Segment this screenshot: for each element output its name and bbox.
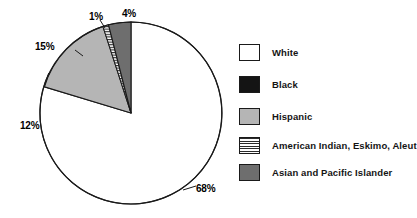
legend-item-asian-pacific-islander: Asian and Pacific Islander (239, 162, 392, 182)
legend-swatch-white-icon (239, 44, 260, 61)
legend-item-hispanic: Hispanic (239, 106, 312, 126)
pie-plot-area: 68% 12% 15% 1% 4% (0, 0, 240, 218)
legend-swatch-american-indian-icon (239, 137, 260, 154)
slice-label-white: 68% (196, 183, 215, 194)
slice-label-asian-pacific-islander: 4% (122, 8, 136, 19)
legend-item-black: Black (239, 74, 298, 94)
legend-swatch-hispanic-icon (239, 108, 260, 125)
legend-swatch-asian-pacific-islander-icon (239, 164, 260, 181)
slice-label-american-indian: 1% (89, 11, 103, 22)
legend-label-asian-pacific-islander: Asian and Pacific Islander (272, 167, 392, 178)
legend-label-black: Black (272, 79, 298, 90)
slice-label-hispanic: 15% (35, 41, 54, 52)
slice-label-black: 12% (20, 120, 39, 131)
legend-label-hispanic: Hispanic (272, 111, 312, 122)
legend-swatch-black-icon (239, 76, 260, 93)
legend-item-white: White (239, 42, 298, 62)
legend-label-american-indian: American Indian, Eskimo, Aleut (272, 140, 417, 151)
legend-item-american-indian: American Indian, Eskimo, Aleut (239, 135, 417, 155)
legend: White Black Hispanic American Indian, Es… (239, 42, 413, 188)
legend-label-white: White (272, 47, 298, 58)
